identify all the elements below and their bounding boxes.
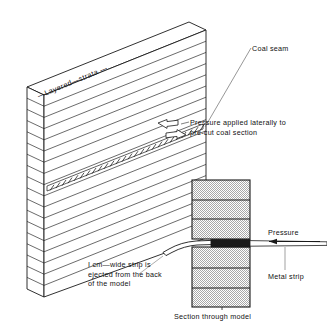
coal-seam-leader [205, 48, 251, 127]
label-section-caption: Section through model [174, 312, 251, 322]
section-upper-block [192, 180, 250, 239]
section-lower-block [192, 247, 250, 307]
label-coal-seam: Coal seam [252, 44, 289, 54]
diagram-canvas: —Layered—strata — Coal seam Pressure app… [0, 0, 327, 335]
label-pressure-section: Pressure [268, 228, 299, 238]
label-metal-strip: Metal strip [268, 272, 304, 282]
label-strip-ejected: I cm—wide strip is ejected from the back… [88, 260, 170, 289]
label-pressure-applied: Pressure applied laterally to pre-cut co… [190, 118, 286, 137]
metal-strip-inserted [211, 240, 250, 248]
